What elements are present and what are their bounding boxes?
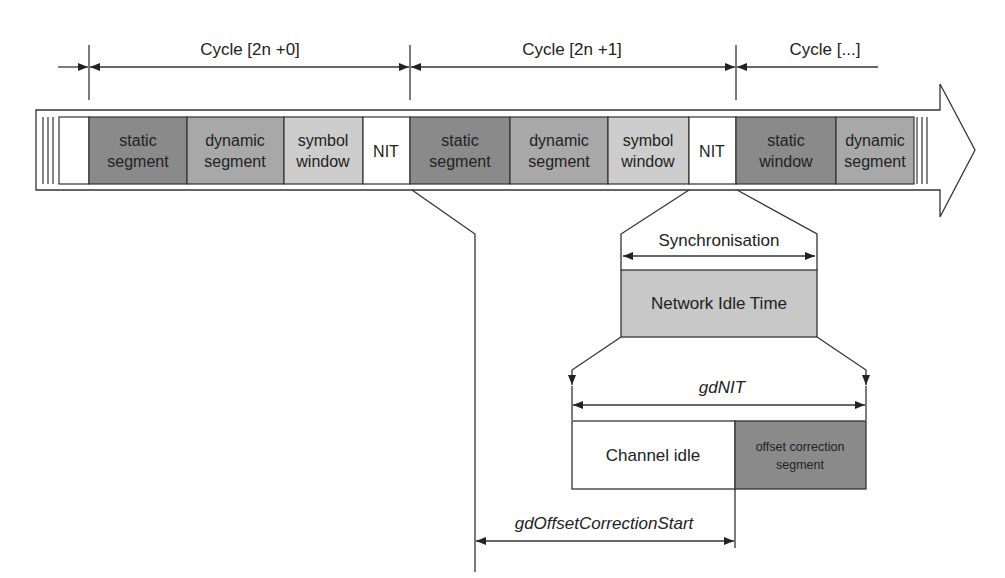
segment-dynamic-0 <box>187 117 284 184</box>
gd-offset-correction-start-label: gdOffsetCorrectionStart <box>515 514 695 533</box>
segment-dynamic-2 <box>836 117 914 184</box>
segment-bar <box>89 117 914 184</box>
segment-label: segment <box>107 153 169 170</box>
offset-correction-segment-box <box>735 421 866 489</box>
segment-label: NIT <box>699 143 725 160</box>
segment-label: NIT <box>373 143 399 160</box>
segment-symbol-1 <box>608 117 689 184</box>
segment-label: static <box>767 132 804 149</box>
segment-label: dynamic <box>529 132 589 149</box>
segment-label: segment <box>844 153 906 170</box>
segment-label: static <box>441 132 478 149</box>
cycle-2-label: Cycle [...] <box>790 40 861 59</box>
segment-label: symbol <box>623 132 674 149</box>
channel-idle-label: Channel idle <box>606 446 701 465</box>
segment-label: segment <box>429 153 491 170</box>
segment-label: static <box>119 132 156 149</box>
gdnit-zoom-right <box>817 337 866 385</box>
segment-label: segment <box>528 153 590 170</box>
cycle-dimension-lines <box>58 45 878 100</box>
synchronisation-label: Synchronisation <box>659 231 780 250</box>
segment-static-1 <box>410 117 510 184</box>
segment-symbol-0 <box>284 117 363 184</box>
offset-correction-label-line1: offset correction <box>756 440 845 454</box>
offset-correction-label-line2: segment <box>776 458 824 472</box>
nit-zoom-left <box>621 190 689 270</box>
segment-static-0 <box>89 117 187 184</box>
segment-dynamic-1 <box>510 117 608 184</box>
gdnit-zoom-left <box>572 337 621 385</box>
segment-label: symbol <box>298 132 349 149</box>
leading-blank-segment <box>59 117 89 184</box>
segment-label: window <box>295 153 350 170</box>
cycle-0-label: Cycle [2n +0] <box>200 40 300 59</box>
offset-start-connector <box>412 190 475 572</box>
segment-label: window <box>620 153 675 170</box>
flexray-cycle-diagram: Cycle [2n +0] Cycle [2n +1] Cycle [...] … <box>0 0 1005 578</box>
cycle-1-label: Cycle [2n +1] <box>522 40 622 59</box>
segment-label: dynamic <box>845 132 905 149</box>
nit-zoom-right <box>737 190 817 270</box>
segment-label: segment <box>204 153 266 170</box>
segment-static-2 <box>736 117 836 184</box>
network-idle-time-label: Network Idle Time <box>651 294 787 313</box>
gdnit-label: gdNIT <box>699 378 747 397</box>
segment-label: dynamic <box>205 132 265 149</box>
segment-label: window <box>758 153 813 170</box>
